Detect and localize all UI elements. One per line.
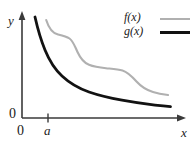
legend-line-swatch-g	[160, 31, 190, 34]
legend-label-f: f(x)	[124, 11, 141, 23]
figure-container: y x 0 0 a f(x) g(x)	[0, 0, 193, 144]
legend-line-swatch-f	[160, 18, 190, 20]
legend-item-g: g(x)	[124, 25, 193, 39]
x-axis-origin-label: 0	[17, 124, 24, 138]
y-axis-origin-label: 0	[9, 107, 16, 121]
legend-item-f: f(x)	[124, 11, 193, 25]
x-axis-label: x	[181, 126, 187, 139]
y-axis-arrowhead	[19, 11, 26, 20]
legend-label-g: g(x)	[124, 25, 143, 37]
x-axis-arrowhead	[177, 115, 186, 122]
y-axis-label: y	[8, 14, 14, 27]
x-axis-tick-label-a: a	[44, 124, 51, 137]
